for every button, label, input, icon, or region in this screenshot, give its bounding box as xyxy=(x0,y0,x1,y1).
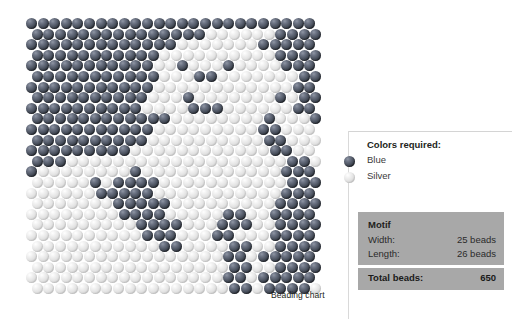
bead-silver[interactable] xyxy=(246,60,257,71)
bead-silver[interactable] xyxy=(78,241,89,252)
bead-blue[interactable] xyxy=(183,92,194,103)
bead-silver[interactable] xyxy=(171,177,182,188)
bead-blue[interactable] xyxy=(130,60,141,71)
bead-blue[interactable] xyxy=(217,219,228,230)
bead-silver[interactable] xyxy=(217,29,228,40)
bead-silver[interactable] xyxy=(200,124,211,135)
bead-blue[interactable] xyxy=(43,156,54,167)
bead-blue[interactable] xyxy=(293,39,304,50)
bead-silver[interactable] xyxy=(32,241,43,252)
bead-blue[interactable] xyxy=(142,124,153,135)
bead-blue[interactable] xyxy=(38,60,49,71)
bead-silver[interactable] xyxy=(212,60,223,71)
bead-silver[interactable] xyxy=(258,103,269,114)
bead-blue[interactable] xyxy=(136,71,147,82)
bead-blue[interactable] xyxy=(310,262,321,273)
bead-silver[interactable] xyxy=(61,188,72,199)
bead-blue[interactable] xyxy=(67,29,78,40)
bead-blue[interactable] xyxy=(270,251,281,262)
bead-silver[interactable] xyxy=(101,262,112,273)
bead-silver[interactable] xyxy=(223,188,234,199)
bead-blue[interactable] xyxy=(299,177,310,188)
bead-silver[interactable] xyxy=(270,166,281,177)
bead-silver[interactable] xyxy=(188,124,199,135)
bead-silver[interactable] xyxy=(188,230,199,241)
bead-blue[interactable] xyxy=(125,177,136,188)
bead-blue[interactable] xyxy=(43,29,54,40)
bead-silver[interactable] xyxy=(217,156,228,167)
bead-silver[interactable] xyxy=(84,188,95,199)
bead-blue[interactable] xyxy=(96,124,107,135)
bead-blue[interactable] xyxy=(49,60,60,71)
bead-blue[interactable] xyxy=(310,71,321,82)
bead-silver[interactable] xyxy=(212,39,223,50)
bead-blue[interactable] xyxy=(38,124,49,135)
bead-silver[interactable] xyxy=(246,103,257,114)
bead-silver[interactable] xyxy=(183,156,194,167)
bead-silver[interactable] xyxy=(26,272,37,283)
bead-silver[interactable] xyxy=(61,230,72,241)
bead-silver[interactable] xyxy=(258,145,269,156)
bead-blue[interactable] xyxy=(136,219,147,230)
bead-silver[interactable] xyxy=(177,145,188,156)
bead-blue[interactable] xyxy=(38,103,49,114)
bead-blue[interactable] xyxy=(223,209,234,220)
bead-blue[interactable] xyxy=(235,272,246,283)
bead-blue[interactable] xyxy=(90,71,101,82)
bead-blue[interactable] xyxy=(270,145,281,156)
bead-blue[interactable] xyxy=(275,241,286,252)
bead-blue[interactable] xyxy=(119,209,130,220)
bead-blue[interactable] xyxy=(67,135,78,146)
bead-blue[interactable] xyxy=(148,198,159,209)
bead-silver[interactable] xyxy=(194,113,205,124)
bead-blue[interactable] xyxy=(229,262,240,273)
bead-blue[interactable] xyxy=(223,230,234,241)
bead-blue[interactable] xyxy=(304,60,315,71)
bead-silver[interactable] xyxy=(26,230,37,241)
bead-blue[interactable] xyxy=(229,241,240,252)
bead-silver[interactable] xyxy=(84,166,95,177)
bead-silver[interactable] xyxy=(177,188,188,199)
bead-blue[interactable] xyxy=(154,209,165,220)
bead-silver[interactable] xyxy=(90,198,101,209)
bead-blue[interactable] xyxy=(241,283,252,294)
bead-blue[interactable] xyxy=(32,92,43,103)
bead-silver[interactable] xyxy=(241,92,252,103)
bead-blue[interactable] xyxy=(26,103,37,114)
bead-silver[interactable] xyxy=(130,251,141,262)
bead-silver[interactable] xyxy=(258,60,269,71)
bead-silver[interactable] xyxy=(264,198,275,209)
bead-silver[interactable] xyxy=(154,60,165,71)
bead-blue[interactable] xyxy=(113,135,124,146)
bead-blue[interactable] xyxy=(113,177,124,188)
bead-silver[interactable] xyxy=(159,262,170,273)
bead-silver[interactable] xyxy=(281,82,292,93)
bead-silver[interactable] xyxy=(188,251,199,262)
bead-silver[interactable] xyxy=(270,82,281,93)
bead-blue[interactable] xyxy=(107,188,118,199)
bead-silver[interactable] xyxy=(252,219,263,230)
bead-silver[interactable] xyxy=(72,272,83,283)
bead-blue[interactable] xyxy=(235,18,246,29)
bead-blue[interactable] xyxy=(107,145,118,156)
bead-silver[interactable] xyxy=(264,156,275,167)
bead-silver[interactable] xyxy=(258,209,269,220)
bead-silver[interactable] xyxy=(101,177,112,188)
bead-blue[interactable] xyxy=(136,198,147,209)
bead-blue[interactable] xyxy=(72,18,83,29)
bead-blue[interactable] xyxy=(287,177,298,188)
bead-blue[interactable] xyxy=(43,113,54,124)
bead-blue[interactable] xyxy=(299,241,310,252)
bead-blue[interactable] xyxy=(107,39,118,50)
bead-silver[interactable] xyxy=(188,166,199,177)
bead-silver[interactable] xyxy=(90,283,101,294)
bead-blue[interactable] xyxy=(281,188,292,199)
bead-blue[interactable] xyxy=(270,230,281,241)
bead-silver[interactable] xyxy=(310,156,321,167)
bead-silver[interactable] xyxy=(90,219,101,230)
bead-silver[interactable] xyxy=(38,188,49,199)
bead-silver[interactable] xyxy=(119,272,130,283)
bead-silver[interactable] xyxy=(275,177,286,188)
bead-silver[interactable] xyxy=(241,71,252,82)
bead-blue[interactable] xyxy=(101,71,112,82)
